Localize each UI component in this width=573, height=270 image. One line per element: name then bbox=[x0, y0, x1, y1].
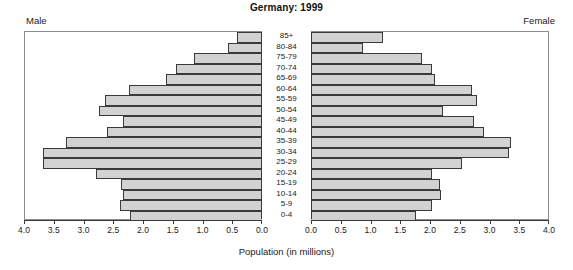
age-label: 60-64 bbox=[262, 84, 311, 95]
female-axis-tick-label: 2.5 bbox=[454, 225, 466, 235]
female-axis-tick-label: 3.0 bbox=[484, 225, 496, 235]
bar-row bbox=[311, 85, 548, 96]
bar-row bbox=[311, 32, 548, 43]
female-axis-tick-label: 3.5 bbox=[513, 225, 525, 235]
age-label: 25-29 bbox=[262, 157, 311, 168]
age-label: 10-14 bbox=[262, 189, 311, 200]
bar-row bbox=[25, 53, 262, 64]
male-bar-35-39 bbox=[66, 137, 262, 148]
female-axis-tick bbox=[460, 220, 461, 224]
male-bar-30-34 bbox=[43, 148, 262, 159]
female-bar-5-9 bbox=[311, 200, 432, 211]
female-bar-55-59 bbox=[311, 95, 477, 106]
male-axis-tick bbox=[143, 220, 144, 224]
age-label: 45-49 bbox=[262, 115, 311, 126]
bar-row bbox=[311, 106, 548, 117]
male-x-axis: 4.03.53.02.52.01.51.00.50.0 bbox=[24, 220, 262, 242]
female-bar-75-79 bbox=[311, 53, 422, 64]
female-axis-tick-label: 0.0 bbox=[305, 225, 317, 235]
female-axis-tick-label: 2.0 bbox=[424, 225, 436, 235]
bar-row bbox=[25, 127, 262, 138]
age-label: 40-44 bbox=[262, 126, 311, 137]
female-bar-70-74 bbox=[311, 64, 432, 75]
female-plot-panel bbox=[311, 31, 549, 220]
bar-row bbox=[25, 158, 262, 169]
bar-row bbox=[311, 127, 548, 138]
age-group-labels: 85+80-8475-7970-7465-6960-6455-5950-5445… bbox=[262, 31, 311, 220]
bar-row bbox=[25, 179, 262, 190]
male-axis-tick-label: 0.5 bbox=[226, 225, 238, 235]
bar-row bbox=[311, 200, 548, 211]
bar-row bbox=[311, 169, 548, 180]
age-label: 85+ bbox=[262, 31, 311, 42]
male-bar-80-84 bbox=[228, 43, 262, 54]
bar-row bbox=[311, 53, 548, 64]
age-label: 20-24 bbox=[262, 168, 311, 179]
female-axis-tick-label: 1.5 bbox=[394, 225, 406, 235]
female-axis-tick bbox=[519, 220, 520, 224]
male-axis-tick-label: 2.0 bbox=[137, 225, 149, 235]
male-plot-panel bbox=[24, 31, 262, 220]
x-axis-title: Population (in millions) bbox=[0, 246, 573, 257]
male-bar-10-14 bbox=[123, 190, 262, 201]
male-axis-tick-label: 0.0 bbox=[256, 225, 268, 235]
male-axis-tick bbox=[54, 220, 55, 224]
female-center-axis bbox=[311, 32, 312, 219]
male-axis-tick-label: 3.5 bbox=[48, 225, 60, 235]
age-label: 50-54 bbox=[262, 105, 311, 116]
female-bar-80-84 bbox=[311, 43, 363, 54]
female-axis-tick bbox=[490, 220, 491, 224]
male-bars-container bbox=[25, 32, 262, 219]
male-panel-label: Male bbox=[26, 15, 47, 26]
female-axis-tick bbox=[548, 220, 549, 224]
female-bar-45-49 bbox=[311, 116, 474, 127]
male-axis-tick-label: 4.0 bbox=[18, 225, 30, 235]
male-bar-45-49 bbox=[123, 116, 262, 127]
age-label: 5-9 bbox=[262, 199, 311, 210]
female-axis-tick bbox=[430, 220, 431, 224]
female-bar-40-44 bbox=[311, 127, 484, 138]
male-axis-tick-label: 1.5 bbox=[167, 225, 179, 235]
bar-row bbox=[25, 116, 262, 127]
female-axis-tick bbox=[371, 220, 372, 224]
female-bar-50-54 bbox=[311, 106, 443, 117]
male-bar-85plus bbox=[237, 32, 262, 43]
bar-row bbox=[311, 74, 548, 85]
age-label: 35-39 bbox=[262, 136, 311, 147]
age-label: 0-4 bbox=[262, 210, 311, 221]
male-bar-25-29 bbox=[43, 158, 262, 169]
male-axis-tick bbox=[24, 220, 25, 224]
male-axis-tick bbox=[261, 220, 262, 224]
bar-row bbox=[25, 64, 262, 75]
female-axis-tick bbox=[311, 220, 312, 224]
female-axis-tick-label: 0.5 bbox=[335, 225, 347, 235]
age-label: 15-19 bbox=[262, 178, 311, 189]
age-label: 30-34 bbox=[262, 147, 311, 158]
female-bar-10-14 bbox=[311, 190, 441, 201]
male-axis-tick bbox=[203, 220, 204, 224]
male-bar-70-74 bbox=[176, 64, 262, 75]
age-label: 55-59 bbox=[262, 94, 311, 105]
bar-row bbox=[311, 148, 548, 159]
bar-row bbox=[25, 148, 262, 159]
male-bar-50-54 bbox=[99, 106, 262, 117]
bar-row bbox=[25, 169, 262, 180]
male-bar-40-44 bbox=[107, 127, 262, 138]
age-label: 65-69 bbox=[262, 73, 311, 84]
female-bars-container bbox=[311, 32, 548, 219]
bar-row bbox=[25, 137, 262, 148]
female-axis-tick-label: 1.0 bbox=[365, 225, 377, 235]
bar-row bbox=[311, 64, 548, 75]
age-label: 70-74 bbox=[262, 63, 311, 74]
female-bar-60-64 bbox=[311, 85, 472, 96]
age-label: 80-84 bbox=[262, 42, 311, 53]
female-axis-tick bbox=[400, 220, 401, 224]
female-bar-20-24 bbox=[311, 169, 432, 180]
bar-row bbox=[311, 179, 548, 190]
bar-row bbox=[25, 190, 262, 201]
population-pyramid-figure: Germany: 1999 Male Female 85+80-8475-797… bbox=[0, 0, 573, 270]
bar-row bbox=[25, 200, 262, 211]
bar-row bbox=[25, 74, 262, 85]
male-axis-tick-label: 2.5 bbox=[107, 225, 119, 235]
male-axis-tick bbox=[84, 220, 85, 224]
